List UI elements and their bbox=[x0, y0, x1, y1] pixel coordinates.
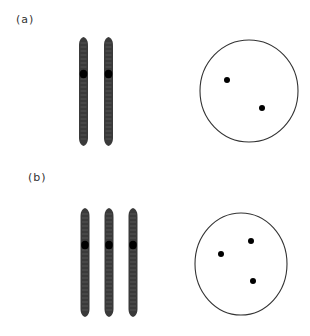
karyotype-diagram bbox=[0, 0, 310, 336]
centromere-a-2 bbox=[105, 70, 113, 78]
centromere-b-1 bbox=[81, 241, 89, 249]
centromere-a-1 bbox=[80, 70, 88, 78]
cell-outline-a bbox=[200, 40, 298, 142]
cell-outline-b bbox=[195, 213, 287, 315]
cell-dot-a-1 bbox=[224, 77, 230, 83]
cell-dot-b-2 bbox=[248, 238, 254, 244]
cell-dot-b-3 bbox=[250, 278, 256, 284]
centromere-b-2 bbox=[105, 241, 113, 249]
cell-dot-a-2 bbox=[259, 105, 265, 111]
centromere-b-3 bbox=[129, 241, 137, 249]
cell-dot-b-1 bbox=[218, 251, 224, 257]
